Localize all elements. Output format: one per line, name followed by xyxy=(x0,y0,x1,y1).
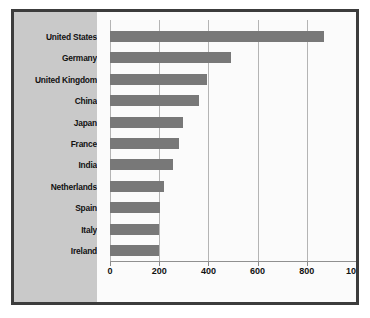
x-axis-tick-labels: 02004006008001000 xyxy=(97,266,356,280)
bar-row xyxy=(97,90,356,112)
x-axis-tick-label: 600 xyxy=(250,266,265,276)
x-axis-tick-mark xyxy=(356,262,357,266)
category-label: Japan xyxy=(24,112,97,134)
category-label: China xyxy=(24,90,97,112)
bar xyxy=(110,202,160,213)
gridline xyxy=(356,20,357,261)
bar xyxy=(110,159,173,170)
x-axis-tick-label: 800 xyxy=(299,266,314,276)
category-label: United Kingdom xyxy=(24,69,97,91)
category-label: United States xyxy=(24,26,97,48)
category-label-gutter: United StatesGermanyUnited KingdomChinaJ… xyxy=(14,12,97,302)
bar xyxy=(110,95,199,106)
bar xyxy=(110,181,164,192)
bar xyxy=(110,117,183,128)
category-label: Ireland xyxy=(24,240,97,262)
bar xyxy=(110,224,159,235)
bar-row xyxy=(97,219,356,241)
category-label: India xyxy=(24,154,97,176)
x-axis-tick-label: 0 xyxy=(107,266,112,276)
bar-row xyxy=(97,154,356,176)
x-axis-tick-label: 200 xyxy=(152,266,167,276)
bar-row xyxy=(97,240,356,262)
category-label: Italy xyxy=(24,219,97,241)
category-label: Netherlands xyxy=(24,176,97,198)
x-axis-tick-label: 400 xyxy=(201,266,216,276)
category-label: Germany xyxy=(24,47,97,69)
chart-page: United StatesGermanyUnited KingdomChinaJ… xyxy=(0,0,370,318)
bar xyxy=(110,31,324,42)
bar xyxy=(110,52,231,63)
bar-rows-layer xyxy=(97,12,356,302)
category-label: Spain xyxy=(24,197,97,219)
bar xyxy=(110,74,207,85)
bar xyxy=(110,245,159,256)
bar-row xyxy=(97,26,356,48)
bar-row xyxy=(97,133,356,155)
bar-row xyxy=(97,112,356,134)
x-axis-tick-label: 1000 xyxy=(346,266,359,276)
plot-canvas: 02004006008001000 xyxy=(97,12,356,302)
bar xyxy=(110,138,179,149)
bar-row xyxy=(97,47,356,69)
bar-row xyxy=(97,197,356,219)
bar-row xyxy=(97,69,356,91)
chart-figure-frame: United StatesGermanyUnited KingdomChinaJ… xyxy=(11,9,359,305)
category-label: France xyxy=(24,133,97,155)
bar-row xyxy=(97,176,356,198)
